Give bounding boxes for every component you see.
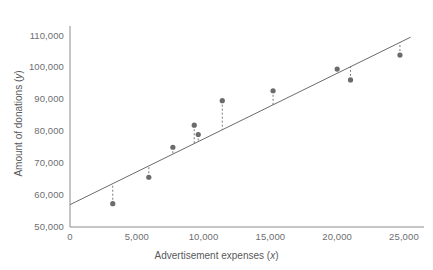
x-tick-label: 5,000 [107,231,167,242]
x-tick-label: 10,000 [174,231,234,242]
data-points [110,52,402,206]
y-axis-title-text: Amount of donations ( [13,79,24,177]
y-tick-label: 110,000 [8,30,64,41]
x-axis-title-text: Advertisement expenses ( [155,250,271,261]
scatter-chart: 50,00060,00070,00080,00090,000100,000110… [0,0,433,270]
plot-area [0,0,433,270]
data-point [348,77,353,82]
data-point [220,98,225,103]
data-point [270,88,275,93]
x-axis-title: Advertisement expenses (x) [0,250,433,261]
data-point [192,123,197,128]
axes [70,26,424,227]
regression-line-path [70,37,411,205]
x-tick-label: 25,000 [374,231,433,242]
data-point [146,175,151,180]
data-point [335,66,340,71]
data-point [397,52,402,57]
x-tick-label: 0 [40,231,100,242]
data-point [196,132,201,137]
x-tick-label: 15,000 [240,231,300,242]
y-axis-title: Amount of donations (y) [13,44,24,204]
residual-lines [113,42,400,203]
x-tick-label: 20,000 [307,231,367,242]
data-point [110,201,115,206]
data-point [170,145,175,150]
y-variable-symbol: y [13,74,24,79]
regression-line [70,37,411,205]
